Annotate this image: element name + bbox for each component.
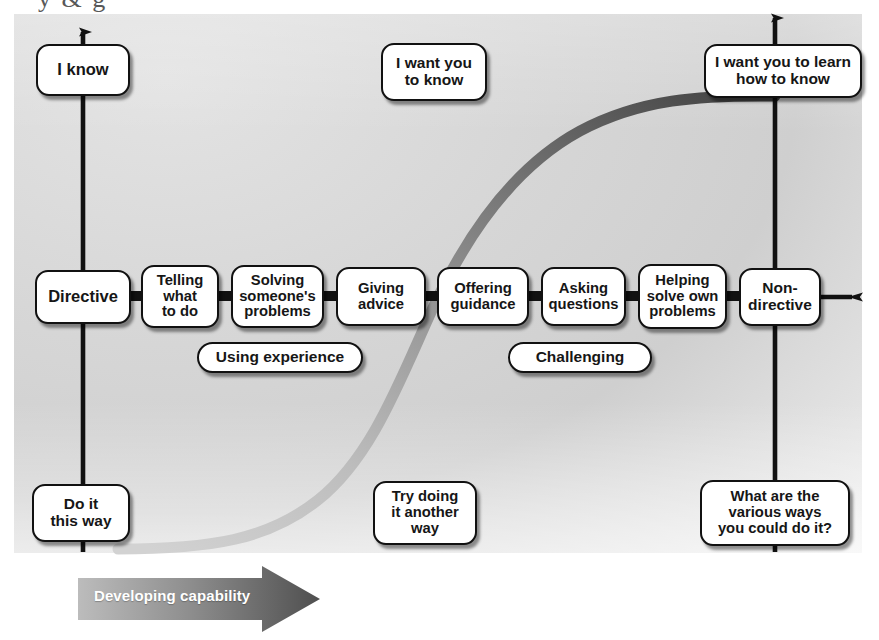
spectrum-step-giving-advice[interactable]: Giving advice bbox=[336, 267, 426, 326]
spectrum-anchor-nondirective[interactable]: Non- directive bbox=[739, 268, 821, 326]
spectrum-step-solving-someones-problems[interactable]: Solving someone's problems bbox=[231, 265, 324, 328]
group-label-using-experience: Using experience bbox=[197, 342, 363, 373]
spectrum-anchor-directive[interactable]: Directive bbox=[35, 270, 131, 324]
developing-capability-label: Developing capability bbox=[94, 587, 250, 604]
label-top-right: I want you to learn how to know bbox=[704, 44, 862, 98]
label-bottom-middle: Try doing it another way bbox=[373, 481, 477, 545]
diagram-canvas: y & g bbox=[0, 0, 879, 640]
spectrum-step-asking-questions[interactable]: Asking questions bbox=[541, 267, 626, 326]
label-top-middle: I want you to know bbox=[381, 43, 487, 101]
developing-capability-label-wrap: Developing capability bbox=[78, 568, 338, 630]
spectrum-step-helping-solve-own-problems[interactable]: Helping solve own problems bbox=[638, 264, 727, 329]
label-top-left: I know bbox=[36, 44, 130, 96]
spectrum-step-telling-what-to-do[interactable]: Telling what to do bbox=[141, 265, 219, 328]
label-bottom-left: Do it this way bbox=[32, 484, 130, 542]
spectrum-step-offering-guidance[interactable]: Offering guidance bbox=[437, 267, 529, 326]
label-bottom-right: What are the various ways you could do i… bbox=[700, 480, 850, 546]
group-label-challenging: Challenging bbox=[508, 342, 652, 373]
